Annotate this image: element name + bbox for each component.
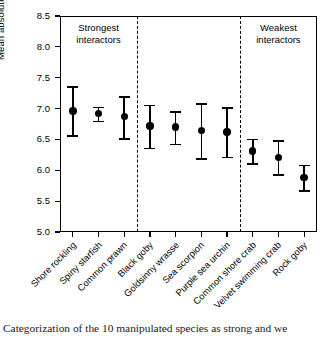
- figure-panel: Mean absolute net effect (×10-3) 5.05.56…: [0, 0, 331, 339]
- annotation-strongest: Strongestinteractors: [54, 22, 144, 45]
- y-tick-mark: [55, 15, 60, 16]
- error-bar-cap-upper: [170, 111, 181, 113]
- error-bar-cap-upper: [119, 96, 130, 98]
- error-bar-cap-lower: [170, 144, 181, 146]
- annotation-line-1: Strongest: [54, 22, 144, 34]
- y-tick-label: 6.0: [37, 163, 50, 176]
- y-tick-label: 8.0: [37, 40, 50, 53]
- error-bar-cap-upper: [93, 107, 104, 109]
- mean-marker: [146, 122, 153, 129]
- x-tick-mark: [98, 232, 99, 237]
- x-tick-mark: [72, 232, 73, 237]
- error-bar-cap-lower: [273, 174, 284, 176]
- annotation-line-1: Weakest: [233, 22, 323, 34]
- group-divider: [240, 16, 241, 232]
- annotation-weakest: Weakestinteractors: [233, 22, 323, 45]
- annotation-line-2: interactors: [233, 34, 323, 46]
- mean-marker: [172, 123, 179, 130]
- x-tick-mark: [124, 232, 125, 237]
- y-tick-label: 6.5: [37, 132, 50, 145]
- error-bar-cap-lower: [119, 138, 130, 140]
- y-tick-mark: [55, 170, 60, 171]
- y-tick-mark: [55, 46, 60, 47]
- error-bar-cap-lower: [144, 148, 155, 150]
- error-bar-cap-lower: [93, 121, 104, 123]
- figure-caption: Categorization of the 10 manipulated spe…: [3, 322, 331, 334]
- error-bar-cap-lower: [222, 157, 233, 159]
- error-bar-cap-upper: [144, 105, 155, 107]
- y-tick-mark: [55, 77, 60, 78]
- error-bar-cap-lower: [247, 163, 258, 165]
- x-tick-mark: [226, 232, 227, 237]
- y-tick-label: 5.0: [37, 225, 50, 238]
- mean-marker: [223, 128, 230, 135]
- mean-marker: [69, 107, 76, 114]
- error-bar-cap-upper: [196, 103, 207, 105]
- x-tick-mark: [149, 232, 150, 237]
- plot-area: [60, 16, 317, 232]
- y-tick-label: 8.5: [37, 9, 50, 22]
- error-bar-cap-lower: [299, 190, 310, 192]
- group-divider: [137, 16, 138, 232]
- y-tick-mark: [55, 201, 60, 202]
- x-tick-mark: [201, 232, 202, 237]
- y-tick-label: 7.0: [37, 102, 50, 115]
- x-tick-mark: [278, 232, 279, 237]
- y-tick-mark: [55, 139, 60, 140]
- y-tick-label: 5.5: [37, 194, 50, 207]
- error-bar-cap-lower: [67, 135, 78, 137]
- y-tick-mark: [55, 231, 60, 232]
- y-axis-title: Mean absolute net effect (×10-3): [0, 0, 6, 60]
- error-bar-cap-upper: [299, 165, 310, 167]
- y-tick-label: 7.5: [37, 71, 50, 84]
- error-bar-cap-upper: [247, 139, 258, 141]
- error-bar-cap-upper: [273, 140, 284, 142]
- error-bar-cap-upper: [67, 86, 78, 88]
- x-tick-mark: [175, 232, 176, 237]
- error-bar-cap-upper: [222, 107, 233, 109]
- error-bar-cap-lower: [196, 158, 207, 160]
- x-tick-mark: [252, 232, 253, 237]
- mean-marker: [275, 154, 282, 161]
- x-tick-mark: [304, 232, 305, 237]
- y-tick-mark: [55, 108, 60, 109]
- annotation-line-2: interactors: [54, 34, 144, 46]
- y-axis-title-text: Mean absolute net effect (×10: [0, 0, 6, 60]
